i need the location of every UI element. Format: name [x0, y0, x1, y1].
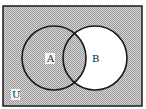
set-b-label: B — [92, 53, 99, 64]
universe-label: U — [12, 89, 20, 100]
set-a-label: A — [46, 53, 55, 64]
venn-diagram: A B U — [0, 0, 146, 109]
